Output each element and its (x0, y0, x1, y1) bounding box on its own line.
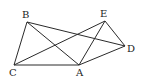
vertex-label-b: B (22, 9, 29, 20)
edge-ce (14, 21, 105, 65)
edge-ad (79, 46, 125, 65)
vertex-label-e: E (100, 8, 107, 19)
vertex-label-c: C (9, 67, 17, 78)
vertex-label-a: A (75, 67, 84, 78)
labels-group: A B C D E (9, 8, 135, 78)
vertex-label-d: D (127, 43, 135, 54)
geometry-diagram: A B C D E (0, 0, 144, 80)
edges-group (14, 21, 125, 65)
edge-bc (14, 22, 27, 65)
